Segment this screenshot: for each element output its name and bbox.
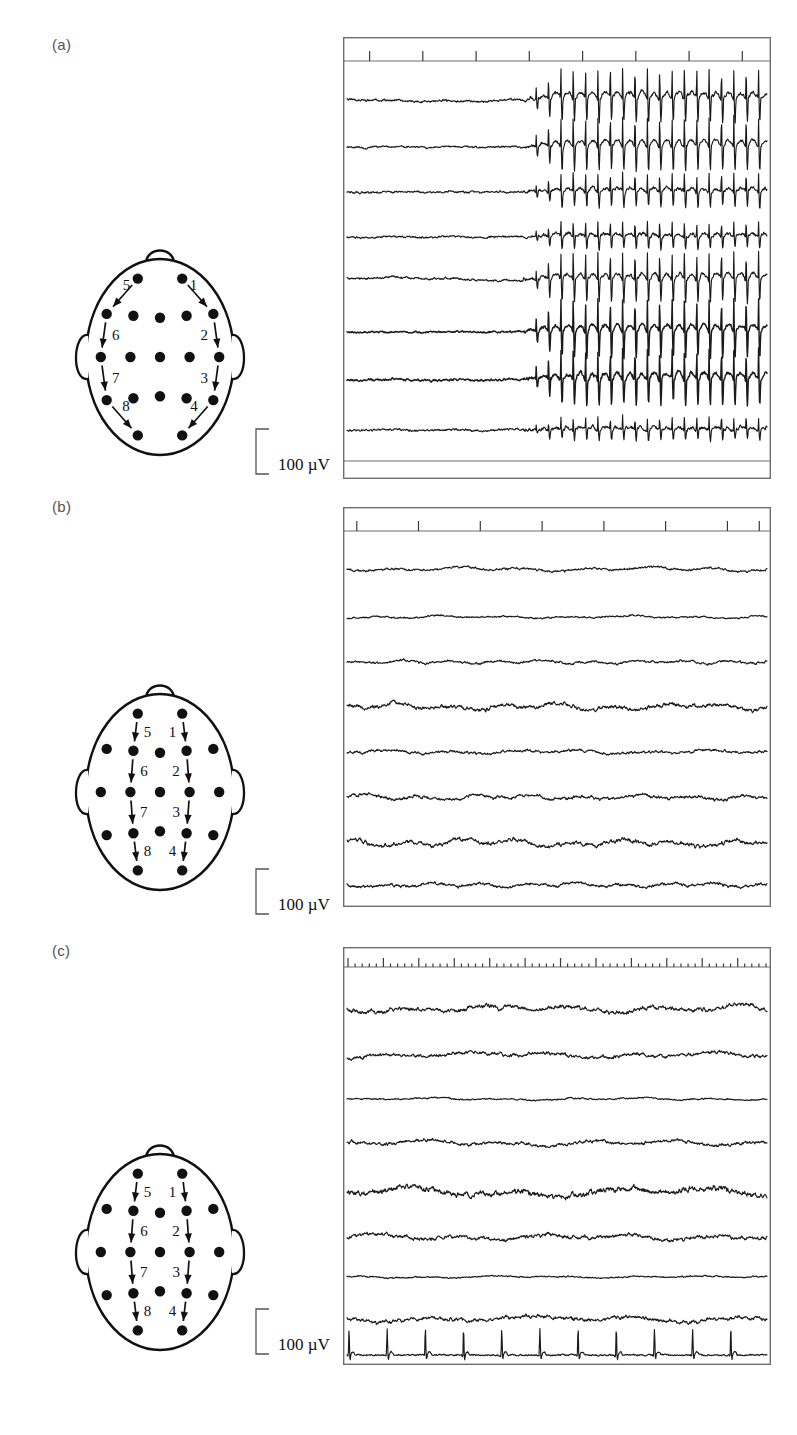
eeg-channel-trace bbox=[347, 1232, 767, 1242]
eeg-channel-trace bbox=[347, 1138, 767, 1147]
electrode-dot bbox=[128, 1288, 138, 1298]
electrode-dot bbox=[184, 787, 194, 797]
electrode-dot bbox=[96, 787, 106, 797]
eeg-channel-trace bbox=[347, 566, 767, 573]
eeg-channel-trace bbox=[347, 299, 767, 359]
electrode-dot bbox=[133, 273, 143, 283]
electrode-dot bbox=[155, 1247, 165, 1257]
electrode-dot bbox=[102, 1290, 112, 1300]
panel-a-scale-label: 100 µV bbox=[278, 455, 330, 475]
eeg-channel-trace bbox=[347, 614, 767, 619]
eeg-channel-trace bbox=[347, 1329, 767, 1360]
eeg-channel-trace bbox=[347, 348, 767, 406]
montage-arrow-number: 4 bbox=[169, 1303, 177, 1319]
montage-arrow-number: 8 bbox=[122, 398, 129, 414]
montage-arrow-number: 6 bbox=[112, 327, 120, 343]
electrode-dot bbox=[208, 309, 218, 319]
electrode-dot bbox=[102, 1204, 112, 1214]
panel-c-scale-bar bbox=[253, 1308, 275, 1356]
electrode-dot bbox=[155, 391, 165, 401]
panel-b: (b) 12345678 100 µV bbox=[0, 480, 797, 925]
panel-c-eeg-traces bbox=[343, 947, 771, 1365]
montage-arrow-number: 8 bbox=[144, 1303, 152, 1319]
eeg-channel-trace bbox=[347, 1184, 767, 1200]
montage-arrow-number: 2 bbox=[172, 763, 180, 779]
electrode-dot bbox=[155, 352, 165, 362]
panel-c-montage-diagram: 12345678 bbox=[45, 1140, 275, 1365]
montage-arrow-number: 8 bbox=[144, 843, 152, 859]
electrode-dot bbox=[155, 1286, 165, 1296]
electrode-dot bbox=[125, 1247, 135, 1257]
electrode-dot bbox=[208, 395, 218, 405]
electrode-dot bbox=[96, 1247, 106, 1257]
electrode-dot bbox=[155, 313, 165, 323]
electrode-dot bbox=[208, 744, 218, 754]
electrode-dot bbox=[102, 395, 112, 405]
eeg-channel-trace bbox=[347, 69, 767, 124]
montage-arrow-number: 5 bbox=[144, 1184, 152, 1200]
eeg-channel-trace bbox=[347, 659, 767, 666]
electrode-dot bbox=[214, 1247, 224, 1257]
montage-arrow-number: 4 bbox=[190, 398, 198, 414]
electrode-dot bbox=[177, 865, 187, 875]
electrode-dot bbox=[177, 273, 187, 283]
montage-arrow-number: 5 bbox=[123, 277, 131, 293]
electrode-dot bbox=[155, 748, 165, 758]
electrode-dot bbox=[125, 787, 135, 797]
eeg-channel-trace bbox=[347, 415, 767, 442]
montage-arrow-number: 6 bbox=[140, 1223, 148, 1239]
montage-arrow-number: 7 bbox=[140, 804, 148, 820]
montage-arrow-number: 2 bbox=[172, 1223, 180, 1239]
electrode-dot bbox=[177, 708, 187, 718]
montage-arrow-number: 3 bbox=[172, 1264, 180, 1280]
panel-a-eeg-traces bbox=[343, 37, 771, 479]
electrode-dot bbox=[208, 830, 218, 840]
eeg-channel-trace bbox=[347, 793, 767, 802]
electrode-dot bbox=[181, 1206, 191, 1216]
montage-arrow-number: 1 bbox=[190, 277, 198, 293]
eeg-channel-trace bbox=[347, 1003, 767, 1014]
electrode-dot bbox=[155, 1208, 165, 1218]
electrode-dot bbox=[128, 311, 138, 321]
montage-arrow-number: 6 bbox=[140, 763, 148, 779]
montage-arrow-number: 7 bbox=[140, 1264, 148, 1280]
electrode-dot bbox=[177, 1168, 187, 1178]
electrode-dot bbox=[133, 708, 143, 718]
montage-arrow-number: 1 bbox=[169, 724, 177, 740]
electrode-dot bbox=[128, 393, 138, 403]
panel-c: (c) 12345678 100 µV bbox=[0, 925, 797, 1385]
panel-a-montage-diagram: 12345678 bbox=[45, 245, 275, 470]
electrode-dot bbox=[133, 1168, 143, 1178]
montage-arrow-number: 4 bbox=[169, 843, 177, 859]
electrode-dot bbox=[133, 430, 143, 440]
electrode-dot bbox=[133, 1325, 143, 1335]
electrode-dot bbox=[181, 1288, 191, 1298]
electrode-dot bbox=[128, 746, 138, 756]
panel-a-label: (a) bbox=[52, 36, 71, 53]
electrode-dot bbox=[208, 1204, 218, 1214]
electrode-dot bbox=[125, 352, 135, 362]
montage-arrow-number: 7 bbox=[112, 370, 120, 386]
electrode-dot bbox=[133, 865, 143, 875]
montage-arrow-number: 5 bbox=[144, 724, 152, 740]
electrode-dot bbox=[128, 1206, 138, 1216]
montage-arrow-number: 3 bbox=[172, 804, 180, 820]
plot-frame bbox=[344, 948, 771, 1365]
panel-b-montage-diagram: 12345678 bbox=[45, 680, 275, 905]
electrode-dot bbox=[177, 1325, 187, 1335]
eeg-channel-trace bbox=[347, 1050, 767, 1060]
electrode-dot bbox=[177, 430, 187, 440]
electrode-dot bbox=[96, 352, 106, 362]
montage-arrow-number: 2 bbox=[200, 327, 208, 343]
panel-b-eeg-traces bbox=[343, 507, 771, 907]
eeg-channel-trace bbox=[347, 700, 767, 713]
electrode-dot bbox=[102, 309, 112, 319]
plot-frame bbox=[344, 38, 771, 479]
electrode-dot bbox=[102, 830, 112, 840]
electrode-dot bbox=[208, 1290, 218, 1300]
electrode-dot bbox=[155, 826, 165, 836]
panel-c-scale-label: 100 µV bbox=[278, 1335, 330, 1355]
eeg-channel-trace bbox=[347, 837, 767, 848]
electrode-dot bbox=[155, 787, 165, 797]
panel-b-label: (b) bbox=[52, 498, 71, 515]
